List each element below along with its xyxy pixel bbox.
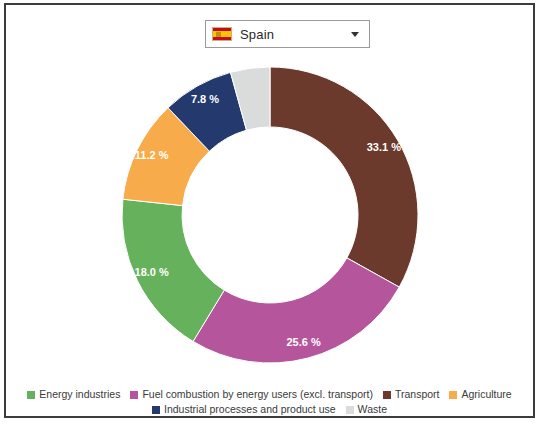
legend-label: Industrial processes and product use <box>164 402 336 417</box>
legend-item[interactable]: Industrial processes and product use <box>152 402 336 417</box>
country-selector-value: Spain <box>240 27 351 42</box>
flag-spain-icon <box>212 27 232 41</box>
legend-item[interactable]: Waste <box>346 402 387 417</box>
legend-swatch-icon <box>130 391 138 399</box>
legend-label: Agriculture <box>461 387 511 402</box>
legend-item[interactable]: Agriculture <box>449 387 511 402</box>
chevron-down-icon[interactable] <box>351 32 359 37</box>
legend-swatch-icon <box>346 406 354 414</box>
donut-chart: 33.1 %25.6 %18.0 %11.2 %7.8 % <box>6 55 533 380</box>
legend-item[interactable]: Energy industries <box>27 387 120 402</box>
country-selector[interactable]: Spain <box>205 20 370 48</box>
donut-chart-svg: 33.1 %25.6 %18.0 %11.2 %7.8 % <box>100 55 440 375</box>
legend-swatch-icon <box>152 406 160 414</box>
slice-value-label: 11.2 % <box>134 149 168 161</box>
donut-slices <box>121 67 417 363</box>
chart-legend: Energy industriesFuel combustion by ener… <box>6 387 533 417</box>
legend-label: Waste <box>358 402 387 417</box>
slice-value-label: 18.0 % <box>134 266 168 278</box>
legend-swatch-icon <box>449 391 457 399</box>
legend-item[interactable]: Transport <box>383 387 440 402</box>
legend-swatch-icon <box>27 391 35 399</box>
legend-label: Energy industries <box>39 387 120 402</box>
legend-swatch-icon <box>383 391 391 399</box>
legend-item[interactable]: Fuel combustion by energy users (excl. t… <box>130 387 373 402</box>
slice-value-label: 25.6 % <box>286 336 320 348</box>
legend-row-1: Energy industriesFuel combustion by ener… <box>6 387 533 402</box>
legend-label: Fuel combustion by energy users (excl. t… <box>142 387 373 402</box>
slice-value-label: 7.8 % <box>190 93 218 105</box>
slice-value-label: 33.1 % <box>366 141 400 153</box>
legend-label: Transport <box>395 387 440 402</box>
chart-panel: Spain 33.1 %25.6 %18.0 %11.2 %7.8 % Ener… <box>4 3 535 418</box>
legend-row-2: Industrial processes and product useWast… <box>6 402 533 417</box>
donut-slice[interactable] <box>270 67 418 287</box>
